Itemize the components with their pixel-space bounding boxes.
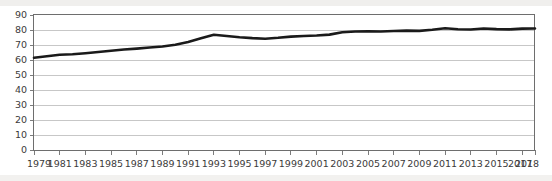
x-tick-label: 1991: [176, 158, 200, 169]
scan-artifact-bottom: [0, 175, 552, 181]
x-tick-label: 2018: [515, 158, 539, 169]
x-tick-label: 1983: [73, 158, 97, 169]
y-axis-tick-labels: 0102030405060708090: [15, 9, 27, 155]
x-tick-label: 1989: [150, 158, 174, 169]
y-tick-label: 20: [15, 114, 27, 125]
x-tick-label: 2015: [484, 158, 508, 169]
x-tick-label: 2013: [459, 158, 483, 169]
x-tick-label: 1981: [48, 158, 72, 169]
x-tick-label: 1987: [125, 158, 149, 169]
y-tick-label: 90: [15, 9, 27, 20]
line-chart: 0102030405060708090 19791981198319851987…: [0, 0, 552, 181]
y-tick-label: 40: [15, 84, 27, 95]
x-tick-label: 2011: [433, 158, 457, 169]
x-tick-label: 2005: [356, 158, 380, 169]
x-tick-label: 1995: [227, 158, 251, 169]
y-tick-label: 10: [15, 129, 27, 140]
x-tick-label: 2001: [305, 158, 329, 169]
x-tick-label: 2007: [382, 158, 406, 169]
x-tick-label: 1999: [279, 158, 303, 169]
plot-frame: [34, 15, 535, 151]
x-tick-label: 1993: [202, 158, 226, 169]
x-tick-label: 2009: [407, 158, 431, 169]
chart-canvas: 0102030405060708090 19791981198319851987…: [0, 0, 552, 181]
y-tick-label: 0: [21, 144, 27, 155]
x-tick-label: 1985: [99, 158, 123, 169]
x-tick-label: 1997: [253, 158, 277, 169]
scan-artifact-top: [0, 0, 552, 6]
y-tick-label: 60: [15, 54, 27, 65]
x-axis-tick-labels: 1979198119831985198719891991199319951997…: [27, 158, 539, 169]
y-tick-label: 70: [15, 39, 27, 50]
y-tick-label: 80: [15, 24, 27, 35]
x-tick-label: 2003: [330, 158, 354, 169]
y-tick-label: 50: [15, 69, 27, 80]
y-tick-label: 30: [15, 99, 27, 110]
gridlines: [30, 16, 535, 151]
data-series-line: [34, 28, 535, 58]
